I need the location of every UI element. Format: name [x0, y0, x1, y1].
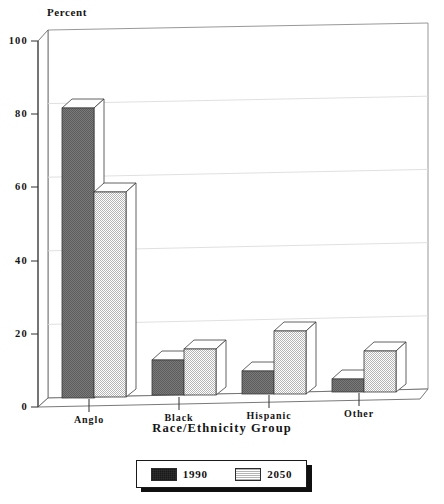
legend-label-2050: 2050 [267, 468, 292, 480]
bar-other-2050 [364, 342, 406, 392]
y-tick-label-80: 80 [0, 108, 28, 119]
y-tick-label-100: 100 [0, 35, 28, 46]
x-tick-label-other: Other [344, 408, 374, 419]
legend-swatch-1990 [151, 468, 177, 481]
x-axis-title: Race/Ethnicity Group [0, 421, 444, 436]
bar-hispanic-2050 [274, 322, 316, 394]
legend-entry-1990: 1990 [151, 468, 208, 481]
y-tick-label-20: 20 [0, 328, 28, 339]
y-tick-label-0: 0 [0, 401, 28, 412]
legend-entry-2050: 2050 [235, 468, 292, 481]
bar-black-2050 [184, 340, 226, 395]
y-axis [31, 41, 38, 407]
legend-label-1990: 1990 [183, 468, 208, 480]
x-tick-label-hispanic: Hispanic [247, 410, 292, 421]
y-tick-label-60: 60 [0, 181, 28, 192]
y-tick-label-40: 40 [0, 255, 28, 266]
y-axis-title: Percent [47, 6, 87, 18]
bar-anglo-2050 [94, 183, 136, 397]
legend: 1990 2050 [136, 460, 307, 488]
legend-swatch-2050 [235, 468, 261, 481]
chart-figure: Percent 100 80 60 40 20 0 Anglo Black Hi… [0, 0, 444, 504]
